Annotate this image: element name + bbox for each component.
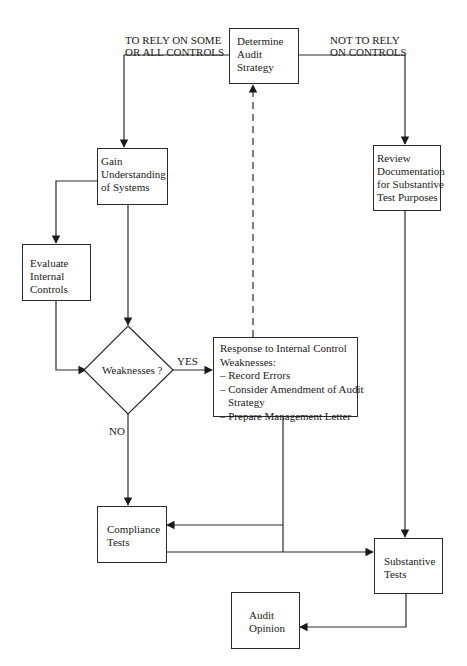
node-text: Determine [237, 35, 293, 48]
edge-determine-to-review [298, 55, 405, 144]
node-text: – Prepare Management Letter [220, 410, 354, 424]
node-evaluate-internal-controls: Evaluate Internal Controls [22, 244, 91, 301]
node-text: for Substantive [377, 178, 438, 191]
node-text: – Consider Amendment of Audit [220, 383, 354, 397]
node-compliance-tests: Compliance Tests [97, 506, 167, 563]
label-line: OR ALL CONTROLS [125, 46, 224, 58]
node-text: Gain [101, 155, 162, 168]
edge-evaluate-to-weaknesses [56, 300, 86, 370]
node-text: Review [377, 152, 438, 165]
label-line: TO RELY ON SOME [125, 34, 224, 46]
node-text: Tests [107, 536, 161, 549]
node-response-to-weaknesses: Response to Internal Control Weaknesses:… [213, 337, 358, 417]
node-text: Understanding [101, 168, 162, 181]
node-text: – Record Errors [220, 369, 354, 383]
edge-gain-to-evaluate [56, 181, 97, 243]
node-text: Audit [237, 48, 293, 61]
label-rely-on-controls: TO RELY ON SOME OR ALL CONTROLS [125, 34, 224, 58]
label-yes: YES [177, 355, 198, 367]
node-text: Internal [30, 270, 85, 283]
node-audit-opinion: Audit Opinion [231, 592, 300, 649]
label-not-rely-on-controls: NOT TO RELY ON CONTROLS [330, 34, 407, 58]
edge-determine-to-gain [124, 55, 229, 147]
node-text: Strategy [237, 61, 293, 74]
node-review-documentation: Review Documentation for Substantive Tes… [373, 145, 441, 211]
node-text: Opinion [249, 622, 294, 635]
label-line: ON CONTROLS [330, 46, 407, 58]
node-text: Tests [384, 568, 437, 581]
node-text: Documentation [377, 165, 438, 178]
node-substantive-tests: Substantive Tests [374, 538, 443, 594]
node-text: Strategy [220, 396, 354, 410]
node-text: Test Purposes [377, 191, 438, 204]
node-text: Audit [249, 609, 294, 622]
weaknesses-decision-label: Weaknesses ? [102, 364, 162, 376]
node-text: Controls [30, 283, 85, 296]
node-determine-audit-strategy: Determine Audit Strategy [229, 28, 299, 84]
label-no: NO [109, 425, 125, 437]
label-line: NOT TO RELY [330, 34, 407, 46]
edge-substantive-to-opinion [300, 593, 406, 627]
node-text: Compliance [107, 523, 161, 536]
node-gain-understanding: Gain Understanding of Systems [97, 148, 168, 205]
node-text: of Systems [101, 181, 162, 194]
node-text: Evaluate [30, 257, 85, 270]
node-text: Weaknesses: [220, 356, 354, 370]
node-text: Substantive [384, 555, 437, 568]
node-text: Response to Internal Control [220, 342, 354, 356]
